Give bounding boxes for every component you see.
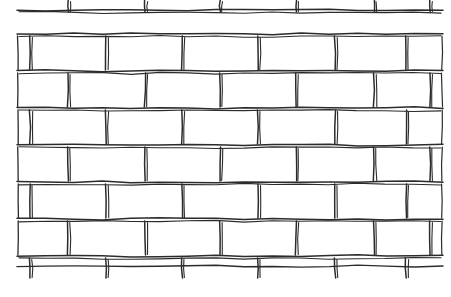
- ink-stroke: [220, 221, 221, 255]
- ink-stroke: [442, 221, 443, 255]
- ink-stroke: [106, 258, 107, 278]
- ink-stroke: [106, 184, 107, 218]
- ink-stroke: [30, 36, 31, 70]
- ink-stroke: [376, 75, 377, 107]
- ink-stroke: [430, 73, 431, 107]
- ink-stroke: [432, 2, 433, 12]
- ink-stroke: [373, 147, 374, 181]
- ink-stroke: [220, 73, 221, 107]
- ink-stroke: [182, 110, 183, 144]
- ink-stroke: [108, 186, 109, 218]
- ink-stroke: [70, 149, 71, 181]
- ink-stroke: [145, 221, 146, 255]
- ink-stroke: [182, 36, 183, 70]
- ink-stroke: [257, 110, 258, 144]
- ink-stroke: [298, 75, 299, 107]
- ink-stroke: [105, 110, 106, 144]
- ink-stroke: [68, 147, 69, 181]
- brick-wall-drawing: Hand-drawn brick wall A hand-drawn black…: [0, 0, 451, 297]
- ink-stroke: [430, 147, 431, 181]
- ink-stroke: [432, 149, 433, 181]
- ink-stroke: [335, 110, 336, 144]
- ink-stroke: [68, 0, 69, 12]
- ink-stroke: [220, 147, 221, 181]
- ink-stroke: [432, 223, 433, 255]
- ink-stroke: [296, 0, 297, 12]
- ink-stroke: [337, 112, 338, 144]
- brick-wall-figure: Hand-drawn brick wall A hand-drawn black…: [0, 0, 451, 297]
- ink-stroke: [182, 184, 183, 218]
- ink-stroke: [442, 184, 443, 218]
- ink-stroke: [258, 258, 259, 278]
- ink-stroke: [29, 258, 30, 278]
- ink-stroke: [376, 2, 377, 12]
- ink-stroke: [145, 147, 146, 181]
- ink-stroke: [108, 260, 109, 278]
- ink-stroke: [17, 36, 18, 70]
- ink-stroke: [222, 75, 223, 107]
- ink-stroke: [406, 184, 407, 218]
